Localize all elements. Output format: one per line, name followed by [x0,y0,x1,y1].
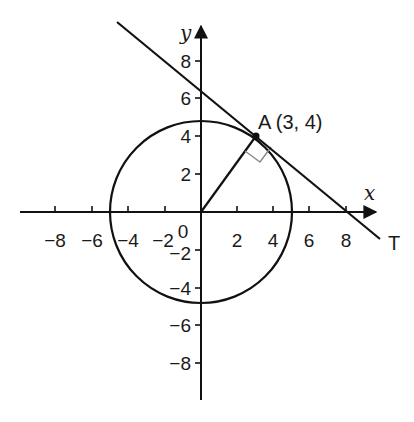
y-tick-label: −8 [169,353,191,374]
x-tick-label: −8 [44,230,66,251]
tangent-line-t [117,22,380,239]
y-tick-label: 4 [180,126,191,147]
y-tick-label: −4 [169,278,191,299]
tangent-label: T [388,232,400,254]
coordinate-diagram: −8 −6 −4 −2 2 4 6 8 0 8 6 4 2 −2 −4 −6 −… [0,0,414,422]
radius-oa [201,136,256,212]
y-tick-label: 2 [180,164,191,185]
y-tick-label: 6 [180,88,191,109]
x-tick-label: −6 [81,230,103,251]
point-a-label: A (3, 4) [258,111,322,133]
x-tick-label: −4 [117,230,139,251]
point-a [253,133,260,140]
y-axis-label: y [179,21,192,45]
x-tick-label: 4 [268,230,279,251]
y-tick-label: −6 [169,315,191,336]
y-tick-label: −2 [169,243,191,264]
y-tick-label: 8 [180,51,191,72]
x-tick-label: 6 [304,230,315,251]
x-tick-label: 8 [341,230,352,251]
x-tick-label: 2 [232,230,243,251]
origin-label: 0 [178,221,189,242]
x-axis-label: x [364,181,375,205]
